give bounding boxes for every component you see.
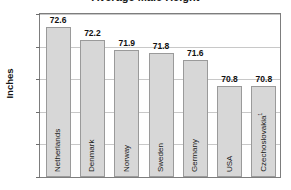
chart-title: Average Male Height [0,0,291,4]
bar[interactable]: USA [217,86,242,177]
bar-value-label: 72.2 [69,29,115,38]
bar-value-label: 70.8 [241,75,287,84]
bar-group: Netherlands72.6 [46,14,71,177]
bar[interactable]: Germany [183,60,208,177]
bar-value-label: 71.6 [172,49,218,58]
footnote-marker: 1 [257,113,263,116]
bar-group: Sweden71.8 [149,14,174,177]
bar-category-label: Denmark [87,140,96,172]
bars: Netherlands72.6Denmark72.2Norway71.9Swed… [40,14,280,177]
bar[interactable]: Czechoslovakia1 [251,86,276,177]
y-tick-mark [36,177,40,178]
plot-area: 686970717273 Netherlands72.6Denmark72.2N… [39,13,281,178]
bar-category-label: Netherlands [53,129,62,172]
bar[interactable]: Norway [114,50,139,177]
bar-category-label: USA [225,156,234,172]
bar-group: Germany71.6 [183,14,208,177]
bar-group: Denmark72.2 [80,14,105,177]
y-axis-title: Inches [4,56,15,112]
bar-category-label: Sweden [156,143,165,172]
bar-group: USA70.8 [217,14,242,177]
bar-category-label: Czechoslovakia1 [257,113,268,172]
bar[interactable]: Denmark [80,40,105,177]
bar-category-label: Norway [122,145,131,172]
bar-category-label: Germany [190,139,199,172]
bar[interactable]: Sweden [149,53,174,177]
bar-group: Norway71.9 [114,14,139,177]
chart-figure: Average Male Height Inches 686970717273 … [0,0,291,190]
bar[interactable]: Netherlands [46,27,71,177]
bar-group: Czechoslovakia170.8 [251,14,276,177]
bar-value-label: 72.6 [35,16,81,25]
